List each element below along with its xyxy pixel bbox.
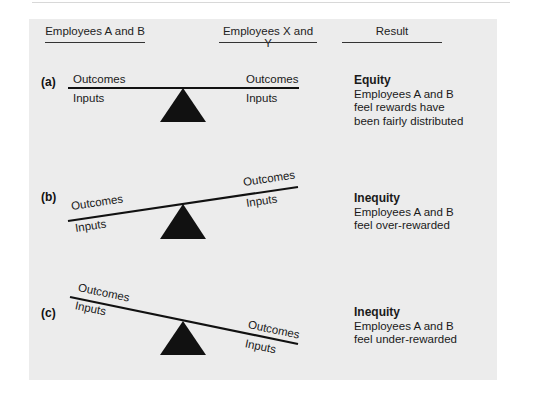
row-label-a: (a) [41, 75, 56, 89]
result-line: Employees A and B [354, 88, 463, 102]
result-b: Inequity Employees A and B feel over-rew… [354, 192, 454, 233]
result-a: Equity Employees A and B feel rewards ha… [354, 74, 463, 128]
result-c: Inequity Employees A and B feel under-re… [354, 306, 457, 347]
result-title-b: Inequity [354, 192, 454, 206]
row-label-b: (b) [41, 190, 56, 204]
inputs-right-a: Inputs [246, 92, 277, 104]
outcomes-left-a: Outcomes [73, 73, 125, 85]
inputs-left-a: Inputs [73, 92, 104, 104]
result-line: been fairly distributed [354, 115, 463, 129]
fulcrum-c-icon [160, 321, 206, 355]
row-label-c: (c) [41, 306, 56, 320]
result-line: Employees A and B [354, 206, 454, 220]
result-title-c: Inequity [354, 306, 457, 320]
fulcrum-a-icon [160, 88, 206, 122]
result-line: feel under-rewarded [354, 333, 457, 347]
result-line: Employees A and B [354, 320, 457, 334]
result-title-a: Equity [354, 74, 463, 88]
outcomes-right-a: Outcomes [246, 73, 298, 85]
fulcrum-b-icon [160, 204, 206, 239]
result-line: feel over-rewarded [354, 219, 454, 233]
result-line: feel rewards have [354, 101, 463, 115]
